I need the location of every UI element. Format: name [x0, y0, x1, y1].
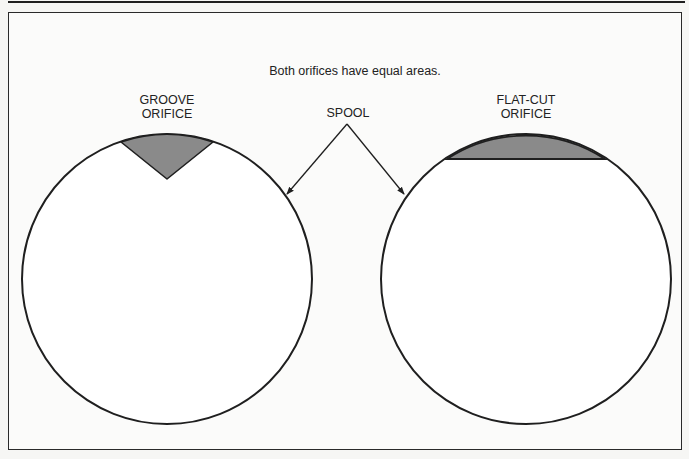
figure-caption: Both orifices have equal areas. [200, 64, 510, 78]
spool-label: SPOOL [318, 106, 378, 120]
flat-cut-orifice-shape [447, 136, 605, 159]
right-spool-circle [381, 134, 671, 424]
flat-cut-orifice-label: FLAT-CUT ORIFICE [476, 93, 576, 121]
spool-arrow-right [347, 124, 404, 194]
spool-arrow-left [287, 124, 347, 194]
left-spool-circle [22, 134, 312, 424]
groove-orifice-label: GROOVE ORIFICE [117, 93, 217, 121]
